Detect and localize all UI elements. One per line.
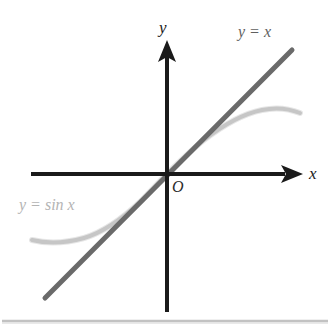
graph-canvas <box>0 0 332 334</box>
origin-label: O <box>172 179 184 195</box>
y-axis-label: y <box>159 19 167 36</box>
graph-figure: y x O y = x y = sin x <box>0 0 332 334</box>
sine-curve-label: y = sin x <box>19 197 75 213</box>
identity-line-label: y = x <box>238 24 271 40</box>
x-axis-label: x <box>309 165 317 182</box>
